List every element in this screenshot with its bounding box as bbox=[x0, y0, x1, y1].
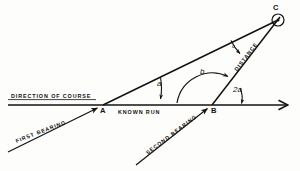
point-c-label: C bbox=[273, 4, 278, 12]
point-b-label: B bbox=[211, 107, 216, 115]
angle-c-label: c bbox=[232, 44, 235, 50]
point-a-label: A bbox=[100, 107, 105, 115]
angle-2a-label: 2a bbox=[233, 86, 242, 94]
course-line-group bbox=[8, 100, 288, 105]
target-dot-at-c bbox=[277, 19, 280, 22]
line-ac bbox=[103, 21, 277, 106]
angle-marker-b bbox=[177, 73, 228, 103]
angle-a-label: a bbox=[157, 80, 161, 88]
known-run-label: KNOWN RUN bbox=[118, 110, 160, 115]
angle-b-label: b bbox=[200, 68, 204, 76]
diagram-canvas: DIRECTION OF COURSE FIRST BEARING SECOND… bbox=[0, 0, 300, 171]
direction-of-course-label: DIRECTION OF COURSE bbox=[11, 94, 91, 99]
